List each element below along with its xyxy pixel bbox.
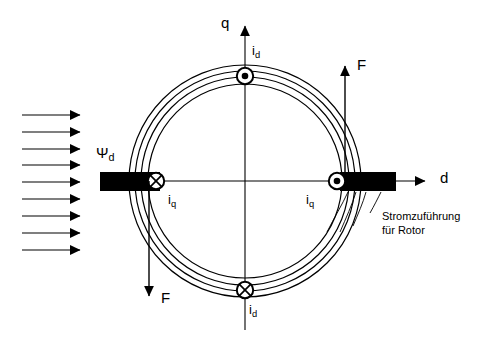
diagram-canvas: q d Ψd id id iq iq F F Stromzuführung fü… bbox=[0, 0, 482, 352]
current-label-left-subscript: q bbox=[171, 199, 176, 209]
rotor-supply-annotation-line2: für Rotor bbox=[382, 224, 460, 238]
q-axis-label: q bbox=[221, 15, 229, 30]
current-label-top: id bbox=[252, 44, 260, 60]
force-label-up: F bbox=[357, 57, 366, 72]
rotor-supply-annotation: Stromzuführung für Rotor bbox=[382, 210, 460, 238]
current-label-bottom: id bbox=[249, 303, 257, 319]
flux-arrow-group bbox=[22, 115, 80, 250]
annotation-leader-lines bbox=[327, 192, 381, 232]
force-label-down: F bbox=[161, 290, 170, 305]
flux-label-symbol: Ψ bbox=[96, 144, 109, 161]
current-symbol-bottom-cross-icon bbox=[237, 282, 253, 298]
diagram-vector-layer bbox=[0, 0, 482, 352]
current-symbol-top-dot-icon bbox=[237, 68, 253, 84]
current-label-top-subscript: d bbox=[255, 50, 260, 60]
current-symbol-right-dot-icon bbox=[329, 173, 345, 189]
rotor-bar-right bbox=[340, 172, 396, 191]
flux-label-subscript: d bbox=[109, 151, 115, 163]
current-symbol-left-cross-icon bbox=[148, 173, 164, 189]
current-label-right: iq bbox=[306, 193, 314, 209]
flux-label: Ψd bbox=[96, 145, 115, 163]
current-label-right-subscript: q bbox=[309, 199, 314, 209]
current-label-left: iq bbox=[168, 193, 176, 209]
rotor-supply-annotation-line1: Stromzuführung bbox=[382, 210, 460, 224]
d-axis-label: d bbox=[440, 170, 448, 185]
current-label-bottom-subscript: d bbox=[252, 309, 257, 319]
